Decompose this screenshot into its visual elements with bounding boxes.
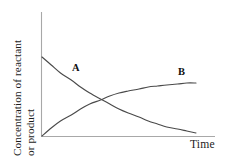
series-label-b: B (178, 66, 185, 77)
y-axis-label-group: Concentration of reactant or product (0, 0, 41, 158)
y-axis-label-line-2: or product (25, 8, 37, 156)
curve-reactant-a (42, 57, 196, 133)
x-axis-label: Time (190, 138, 215, 151)
y-axis-label-line-1: Concentration of reactant (12, 8, 24, 156)
series-label-a: A (72, 62, 80, 73)
reaction-kinetics-chart: Concentration of reactant or product Tim… (0, 0, 238, 158)
